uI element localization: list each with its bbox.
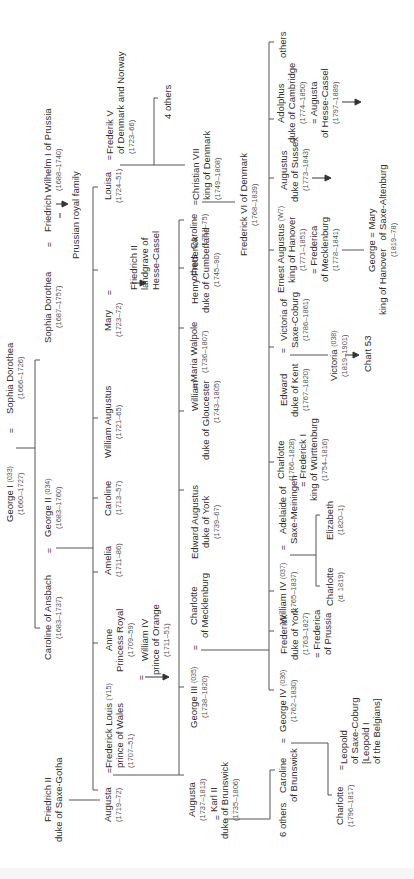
person-friedrich-ii-saxe-gotha: Friedrich II duke of Saxe-Gotha bbox=[40, 760, 66, 840]
person-sophia-dorothea-celle: Sophia Dorothea (1666–1726) bbox=[2, 330, 28, 426]
marriage-sign: = bbox=[278, 348, 288, 353]
marriage-sign: = bbox=[212, 815, 222, 820]
person-william-gloucester: William duke of Gloucester (1743–1805) bbox=[186, 380, 224, 474]
person-charlotte-1796: Charlotte (1796–1817) bbox=[332, 775, 358, 837]
marriage-sign: = bbox=[44, 242, 54, 247]
person-charlotte-d1819: Charlotte (d. 1819) bbox=[322, 565, 348, 609]
person-adolphus-duke-of-cambridge: Adolphus duke of Cambridge (1774–1850) =… bbox=[275, 58, 341, 148]
others-label: others bbox=[186, 250, 200, 286]
four-others: 4 others bbox=[160, 82, 174, 122]
person-amelia: Amelia (1711–86) bbox=[100, 535, 126, 585]
marriage-sign: = bbox=[6, 428, 16, 433]
marriage-sign: = bbox=[190, 645, 200, 650]
person-sophia-dorothea-prussia: Sophia Dorothea (1687–1757) bbox=[40, 255, 66, 359]
marriage-sign: = bbox=[104, 290, 114, 295]
marriage-sign: = bbox=[104, 768, 114, 773]
person-mary: Mary (1723–72) bbox=[100, 300, 126, 340]
person-william-iv: William IV (037) (1765–1837) bbox=[275, 555, 301, 631]
marriage-sign: = bbox=[136, 675, 146, 680]
person-friedrich-wilhelm-i: Friedrich Wilhelm I of Prussia (1688–174… bbox=[40, 100, 66, 240]
person-friedrich-ii-hesse-cassel: Friedrich II landgrave of Hesse-Cassel bbox=[124, 232, 164, 290]
person-christian-vii: Christian VII king of Denmark (1749–1808… bbox=[186, 130, 226, 200]
person-frederik-v: Frederik V of Denmark and Norway (1723–6… bbox=[100, 42, 140, 154]
person-caroline-of-ansbach: Caroline of Ansbach (1683–1737) bbox=[40, 560, 66, 675]
marriage-sign: = bbox=[278, 738, 288, 743]
six-others: 6 others bbox=[275, 800, 289, 840]
person-maria-walpole: Maria Walpole (1736–1807) bbox=[186, 320, 212, 384]
person-george-i: George I (033) (1660–1727) bbox=[2, 440, 28, 548]
person-charlotte-1766: Charlotte (1766–1828) = Frederick I king… bbox=[275, 410, 329, 510]
person-edward-augustus: Edward Augustus duke of York (1739–67) bbox=[186, 480, 224, 564]
person-george-iv: George IV (036) (1762–1830) bbox=[275, 665, 301, 737]
others-george-iii-children: others bbox=[275, 30, 289, 60]
person-augusta-1719: Augusta (1719–72) bbox=[100, 780, 126, 830]
person-caroline-1713: Caroline (1713–57) bbox=[100, 470, 126, 526]
person-ernest-augustus: Ernest Augustus (W7) king of Hanover (17… bbox=[275, 195, 341, 305]
person-caroline-of-brunswick: Caroline of Brunswick bbox=[275, 747, 301, 803]
person-frederick-vi: Frederick VI of Denmark (1768–1839) bbox=[236, 150, 262, 260]
person-george-king-of-hanover: George = Mary king of Hanover of Saxe-Al… bbox=[362, 170, 402, 310]
prussian-royal-family-note: Prussian royal family bbox=[68, 160, 82, 270]
person-edward-duke-of-kent: Edward duke of Kent (1767–1820) bbox=[275, 358, 313, 422]
marriage-sign: = bbox=[190, 200, 200, 205]
person-charlotte-of-mecklenburg: Charlotte of Mecklenburg bbox=[186, 570, 212, 642]
person-william-augustus: William Augustus (1721–65) bbox=[100, 380, 126, 464]
marriage-sign: = bbox=[278, 545, 288, 550]
marriage-sign: = bbox=[104, 155, 114, 160]
marriage-sign: = bbox=[44, 548, 54, 553]
person-william-iv-orange: William IV prince of Orange (1711–51) bbox=[136, 605, 174, 675]
person-anne-princess-royal: Anne Princess Royal (1709–59) bbox=[100, 598, 138, 682]
page-bottom-edge bbox=[0, 868, 414, 879]
person-caroline-1751: Caroline (1751–75) bbox=[186, 210, 212, 252]
chart-53-reference[interactable]: Chart 53 bbox=[360, 330, 374, 378]
person-frederick-louis: Frederick Louis (Y15) prince of Wales (1… bbox=[100, 690, 138, 768]
marriage-sign: = bbox=[190, 384, 200, 389]
person-leopold-of-saxe-coburg: Leopold of Saxe-Coburg [Leopold I of the… bbox=[334, 690, 386, 764]
person-augusta-1737: Augusta (1737–1813) Karl II duke of Brun… bbox=[186, 760, 240, 840]
person-louisa: Louisa (1724–51) bbox=[100, 165, 126, 207]
marriage-sign: = bbox=[336, 765, 346, 770]
person-victoria: Victoria (038) (1819–1901) bbox=[326, 325, 352, 387]
person-george-iii: George III (035) (1738–1820) bbox=[186, 655, 212, 739]
person-george-ii: George II (034) (1683–1760) bbox=[40, 470, 66, 546]
